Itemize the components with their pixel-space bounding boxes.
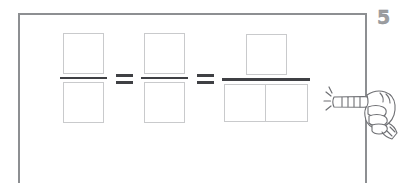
equals-sign-2: = (188, 74, 222, 83)
fraction-1-numerator[interactable] (63, 33, 104, 74)
fraction-2-numerator[interactable] (144, 33, 185, 74)
slide-frame-top-border (18, 13, 367, 15)
equals-sign-2-bottom-bar (197, 81, 214, 84)
pointing-hand-cursor[interactable] (322, 83, 400, 143)
slide-frame-right-border (365, 13, 367, 183)
fraction-1-bar (60, 77, 107, 80)
click-sparkle-icon (324, 87, 332, 110)
fraction-3-numerator[interactable] (246, 34, 287, 75)
fraction-expression: = = (60, 32, 310, 124)
fraction-2-bar (141, 77, 188, 80)
fraction-2[interactable] (141, 33, 188, 124)
fraction-3-denominator[interactable] (224, 84, 308, 122)
equals-sign-1: = (107, 74, 141, 83)
fraction-3[interactable] (222, 34, 310, 122)
fraction-1-denominator[interactable] (63, 82, 104, 123)
page-number-badge: 5 (377, 6, 397, 28)
fraction-1-numerator-cell[interactable] (63, 33, 104, 74)
fraction-1[interactable] (60, 33, 107, 124)
equals-sign-1-top-bar (116, 74, 133, 77)
slide-canvas: 5 = (0, 0, 400, 183)
fraction-3-denominator-cell-right[interactable] (265, 84, 308, 122)
fraction-3-denominator-cell-left[interactable] (224, 84, 267, 122)
fraction-2-denominator[interactable] (144, 82, 185, 123)
equals-sign-1-bottom-bar (116, 81, 133, 84)
equals-sign-2-label: = (205, 79, 206, 80)
fraction-1-denominator-cell[interactable] (63, 82, 104, 123)
fraction-3-bar (222, 78, 310, 81)
fraction-3-numerator-cell[interactable] (246, 34, 287, 75)
fraction-2-numerator-cell[interactable] (144, 33, 185, 74)
equals-sign-1-label: = (124, 79, 125, 80)
equals-sign-2-top-bar (197, 74, 214, 77)
fraction-2-denominator-cell[interactable] (144, 82, 185, 123)
slide-frame-left-border (18, 13, 20, 183)
